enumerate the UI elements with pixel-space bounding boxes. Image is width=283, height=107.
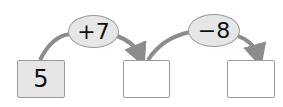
arrow-2 — [148, 32, 190, 60]
arrow-1-tail — [117, 36, 140, 56]
operation-plus-7: +7 — [68, 15, 119, 48]
arrow-2-tail — [238, 36, 258, 56]
result-box-1[interactable] — [123, 60, 170, 98]
operation-minus-8: −8 — [188, 14, 240, 47]
arrow-1 — [40, 34, 70, 60]
result-box-2[interactable] — [227, 60, 275, 98]
start-value-box: 5 — [17, 60, 65, 98]
